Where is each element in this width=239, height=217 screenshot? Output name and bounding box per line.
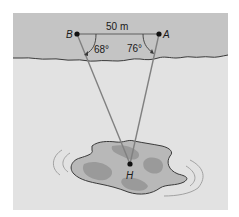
label-a: A xyxy=(162,29,170,40)
point-b xyxy=(74,31,79,36)
point-h xyxy=(127,161,132,166)
label-b: B xyxy=(66,29,73,40)
point-a xyxy=(156,31,161,36)
label-h: H xyxy=(126,170,134,181)
angle-label-a: 76° xyxy=(127,43,142,54)
triangulation-diagram: B A H 50 m 68° 76° xyxy=(0,0,239,217)
angle-label-b: 68° xyxy=(94,44,109,55)
distance-label: 50 m xyxy=(106,21,128,32)
